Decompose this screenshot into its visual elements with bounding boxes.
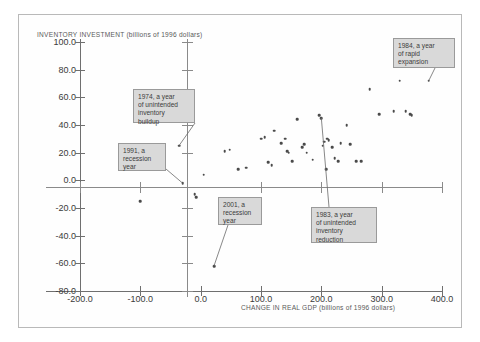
figure-card: INVENTORY INVESTMENT (billions of 1996 d… [18,14,462,328]
scatter-plot: INVENTORY INVESTMENT (billions of 1996 d… [19,15,463,329]
annotation-callout-1984: 1984, a year of rapid expansion [393,38,455,68]
